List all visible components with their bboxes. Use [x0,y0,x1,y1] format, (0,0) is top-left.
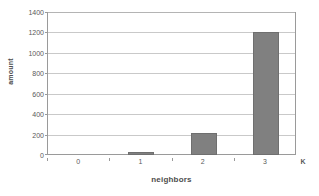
bar-slot [253,12,279,155]
y-axis-tick-label: 1400 [8,9,44,16]
y-axis-tick-label: 200 [8,131,44,138]
x-axis-tick-mark [172,158,173,161]
bar[interactable] [191,133,217,155]
x-axis-title: neighbors [47,175,296,184]
x-axis-tick-label: 1 [138,158,142,165]
y-axis-tick-mark [45,114,48,115]
bar-slot [191,12,217,155]
y-axis-tick-mark [45,135,48,136]
plot-area [47,12,296,155]
y-axis-tick-label: 400 [8,111,44,118]
bar-series [48,12,295,155]
x-axis-tick-mark [47,158,48,161]
bar[interactable] [253,32,279,155]
x-axis-tick-labels: 0123 [47,158,296,170]
y-axis-tick-mark [45,53,48,54]
y-axis-tick-labels: 1400120010008006004002000 [8,12,44,155]
bar-chart: amount 1400120010008006004002000 0123 K … [0,0,319,196]
bar[interactable] [128,152,154,155]
x-axis-tick-label: 2 [201,158,205,165]
y-axis-tick-label: 0 [8,152,44,159]
y-axis-tick-mark [45,94,48,95]
bar-slot [66,12,92,155]
y-axis-tick-label: 600 [8,90,44,97]
axis-end-marker-k: K [300,158,305,165]
y-axis-tick-mark [45,154,48,155]
y-axis-tick-mark [45,12,48,13]
x-axis-tick-mark [234,158,235,161]
y-axis-tick-mark [45,73,48,74]
x-axis-tick-label: 3 [263,158,267,165]
y-axis-tick-label: 1000 [8,49,44,56]
x-axis-tick-mark [109,158,110,161]
y-axis-tick-label: 1200 [8,29,44,36]
y-axis-tick-label: 800 [8,70,44,77]
y-axis-tick-mark [45,32,48,33]
x-axis-tick-label: 0 [76,158,80,165]
bar-slot [128,12,154,155]
